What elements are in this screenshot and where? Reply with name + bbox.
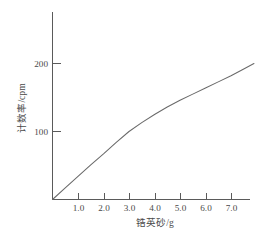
chart-figure: 200 100 1.0 2.0 3.0 4.0 5.0 6.0 7.0 锆英砂/…: [0, 0, 262, 239]
x-tick-label-3: 3.0: [124, 203, 136, 213]
x-tick-label-7: 7.0: [226, 203, 238, 213]
x-tick-label-6: 6.0: [200, 203, 212, 213]
x-tick-label-4: 4.0: [149, 203, 161, 213]
y-tick-label-200: 200: [34, 59, 48, 69]
x-tick-label-5: 5.0: [175, 203, 187, 213]
x-axis-title: 锆英砂/g: [136, 217, 174, 228]
x-tick-label-2: 2.0: [98, 203, 110, 213]
line-chart: 200 100 1.0 2.0 3.0 4.0 5.0 6.0 7.0 锆英砂/…: [0, 0, 262, 239]
y-tick-label-100: 100: [34, 127, 48, 137]
x-tick-label-1: 1.0: [73, 203, 85, 213]
y-axis-title: 计数率/cpm: [16, 83, 27, 133]
